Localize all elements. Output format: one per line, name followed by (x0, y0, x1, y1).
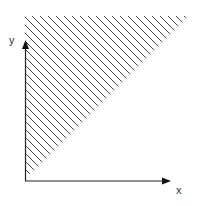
x-axis (25, 178, 171, 185)
y-axis (22, 40, 29, 181)
x-axis-arrow-icon (162, 178, 171, 185)
x-axis-label: x (176, 184, 182, 196)
hatched-region (0, 16, 199, 196)
y-axis-label: y (9, 34, 15, 46)
diagram-canvas (0, 0, 199, 206)
